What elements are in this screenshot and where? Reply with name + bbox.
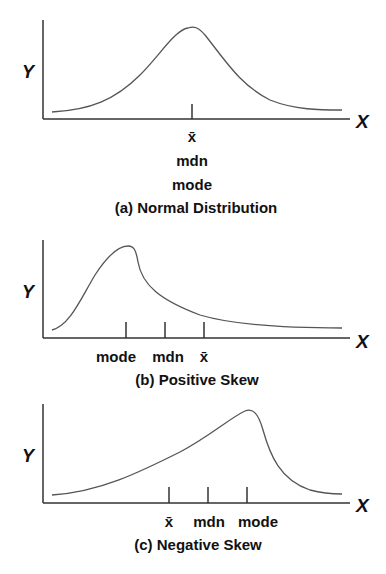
y-axis-label: Y [22,446,36,466]
y-axis-label: Y [22,62,36,82]
x-axis-label: X [355,111,370,132]
median-label: mdn [152,348,184,365]
panel-positive-skew: Y X mode mdn x̄ (b) Positive Skew [22,240,370,388]
negative-skew-curve [52,410,342,495]
median-label: mdn [193,513,225,530]
mode-label: mode [96,348,136,365]
x-axis-label: X [355,495,370,516]
mode-label: mode [172,176,212,193]
distribution-diagrams: Y X x̄ mdn mode (a) Normal Distribution … [0,0,386,574]
mode-label: mode [238,513,278,530]
caption: (a) Normal Distribution [115,199,278,216]
mean-label: x̄ [188,128,197,145]
normal-curve [52,27,342,112]
positive-skew-curve [52,246,342,330]
mean-label: x̄ [165,513,174,530]
median-label: mdn [176,152,208,169]
caption: (b) Positive Skew [135,371,259,388]
panel-negative-skew: Y X x̄ mdn mode (c) Negative Skew [22,404,370,553]
mean-label: x̄ [200,348,209,365]
x-axis-label: X [355,331,370,352]
y-axis-label: Y [22,282,36,302]
panel-normal-distribution: Y X x̄ mdn mode (a) Normal Distribution [22,20,370,216]
caption: (c) Negative Skew [134,536,262,553]
